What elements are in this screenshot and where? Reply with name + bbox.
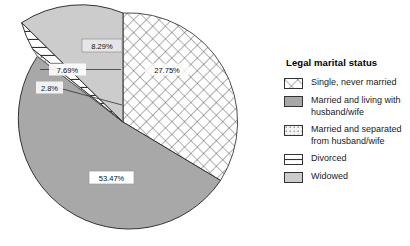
- data-label-widowed: 8.29%: [82, 39, 122, 52]
- dotted-swatch: [284, 125, 303, 136]
- solid-gray-swatch: [284, 96, 303, 107]
- legend-label-married-separated: Married and separated from husband/wife: [311, 124, 410, 147]
- pie-slices: [18, 5, 237, 229]
- data-label-text-married-living: 53.47%: [99, 174, 125, 183]
- data-label-text-single: 27.75%: [154, 66, 180, 75]
- legend-item-married-living[interactable]: Married and living with husband/wife: [284, 95, 410, 118]
- legend-label-married-living: Married and living with husband/wife: [311, 95, 410, 118]
- legend-label-single-never-married: Single, never married: [311, 77, 397, 89]
- pie-plot-area: 27.75% 53.47% 2.8% 7.69%: [0, 0, 250, 246]
- data-label-text-divorced: 7.69%: [57, 66, 79, 75]
- horizontal-lines-swatch: [284, 154, 303, 165]
- legend-item-divorced[interactable]: Divorced: [284, 153, 410, 165]
- pie-svg: 27.75% 53.47% 2.8% 7.69%: [0, 0, 250, 246]
- legend-item-married-separated[interactable]: Married and separated from husband/wife: [284, 124, 410, 147]
- legend: Legal marital status Single, never marri…: [284, 57, 410, 189]
- legend-title: Legal marital status: [286, 57, 410, 68]
- legend-item-single-never-married[interactable]: Single, never married: [284, 77, 410, 89]
- cross-hatch-swatch: [284, 78, 303, 89]
- data-label-text-separated: 2.8%: [41, 84, 58, 93]
- legend-item-widowed[interactable]: Widowed: [284, 171, 410, 183]
- pie-chart-figure: 27.75% 53.47% 2.8% 7.69%: [0, 0, 410, 246]
- light-gray-swatch: [284, 172, 303, 183]
- data-label-text-widowed: 8.29%: [91, 42, 113, 51]
- legend-label-divorced: Divorced: [311, 153, 347, 165]
- data-label-single-never-married: 27.75%: [145, 64, 189, 76]
- legend-label-widowed: Widowed: [311, 171, 348, 183]
- data-label-married-living: 53.47%: [89, 171, 134, 184]
